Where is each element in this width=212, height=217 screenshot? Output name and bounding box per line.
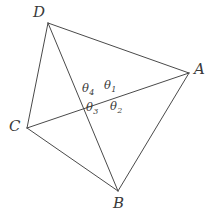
edge-AB xyxy=(118,73,189,191)
vertex-label-D: D xyxy=(33,5,45,20)
geometry-canvas xyxy=(0,0,212,217)
geometry-figure: D A C B θ1 θ2 θ3 θ4 xyxy=(0,0,212,217)
edge-DA xyxy=(48,23,189,73)
angle-label-theta-3: θ3 xyxy=(86,102,98,114)
angle-label-theta-1: θ1 xyxy=(104,80,116,92)
diagonal-DB xyxy=(48,23,118,191)
edge-CD xyxy=(27,23,48,128)
vertex-label-B: B xyxy=(113,196,124,211)
quadrilateral-diagonals xyxy=(27,23,189,191)
vertex-label-A: A xyxy=(194,62,205,77)
angle-label-theta-2: θ2 xyxy=(110,101,122,113)
vertex-label-C: C xyxy=(9,119,20,134)
angle-label-theta-4: θ4 xyxy=(82,83,94,95)
